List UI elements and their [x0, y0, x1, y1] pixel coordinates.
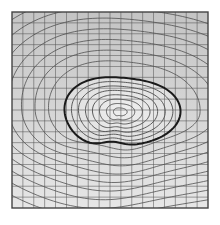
- contour-figure: [0, 0, 220, 225]
- contour-plot: [0, 0, 220, 225]
